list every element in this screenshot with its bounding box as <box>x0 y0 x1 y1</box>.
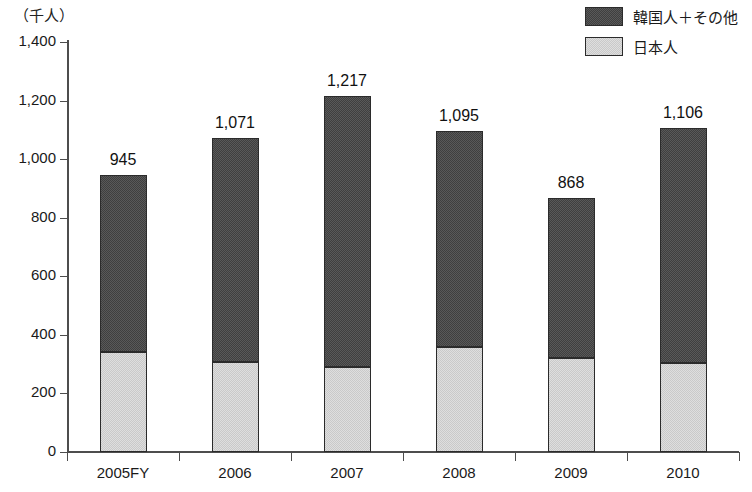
x-axis-tick <box>179 452 180 461</box>
bar-segment-korean-other[interactable] <box>436 131 483 347</box>
y-axis-tick <box>60 101 68 102</box>
y-axis-tick <box>60 335 68 336</box>
y-axis-tick-label: 0 <box>0 442 56 459</box>
bar-total-label: 868 <box>511 174 631 192</box>
stacked-bar[interactable] <box>548 198 595 452</box>
bar-segment-japanese[interactable] <box>548 358 595 452</box>
bar-segment-japanese[interactable] <box>212 362 259 452</box>
y-axis-tick-label: 600 <box>0 266 56 283</box>
y-axis-tick <box>60 276 68 277</box>
x-axis-tick <box>291 452 292 461</box>
x-axis-tick-label: 2010 <box>623 464 743 481</box>
x-axis-tick-label: 2006 <box>175 464 295 481</box>
x-axis-tick <box>739 452 740 461</box>
bar-total-label: 1,095 <box>399 107 519 125</box>
y-axis-line <box>67 40 69 453</box>
bar-total-label: 945 <box>63 151 183 169</box>
stacked-bar[interactable] <box>660 128 707 452</box>
bar-total-label: 1,217 <box>287 72 407 90</box>
x-axis-tick <box>67 452 68 461</box>
x-axis-tick-label: 2005FY <box>63 464 183 481</box>
y-axis-tick <box>60 42 68 43</box>
x-axis-tick <box>627 452 628 461</box>
y-axis-tick-label: 800 <box>0 208 56 225</box>
stacked-bar[interactable] <box>324 96 371 452</box>
stacked-bar[interactable] <box>436 131 483 452</box>
y-axis-tick-label: 1,400 <box>0 32 56 49</box>
y-axis-tick-label: 200 <box>0 383 56 400</box>
x-axis-tick <box>515 452 516 461</box>
bar-segment-korean-other[interactable] <box>100 175 147 352</box>
x-axis-tick-label: 2009 <box>511 464 631 481</box>
x-axis-tick-label: 2008 <box>399 464 519 481</box>
stacked-bar-chart: （千人） 韓国人＋その他 日本人 02004006008001,0001,200… <box>0 0 752 492</box>
bar-segment-japanese[interactable] <box>436 347 483 452</box>
bar-segment-japanese[interactable] <box>660 363 707 452</box>
bar-segment-korean-other[interactable] <box>660 128 707 363</box>
stacked-bar[interactable] <box>212 138 259 452</box>
bar-total-label: 1,071 <box>175 114 295 132</box>
bar-segment-korean-other[interactable] <box>324 96 371 367</box>
y-axis-tick <box>60 393 68 394</box>
bar-segment-japanese[interactable] <box>324 367 371 452</box>
bar-segment-japanese[interactable] <box>100 352 147 452</box>
bar-total-label: 1,106 <box>623 104 743 122</box>
bar-segment-korean-other[interactable] <box>548 198 595 358</box>
y-axis-tick-label: 1,000 <box>0 149 56 166</box>
stacked-bar[interactable] <box>100 175 147 452</box>
x-axis-tick <box>403 452 404 461</box>
plot-area: 02004006008001,0001,2001,400 2005FY20062… <box>0 0 752 492</box>
y-axis-tick-label: 1,200 <box>0 91 56 108</box>
bar-segment-korean-other[interactable] <box>212 138 259 361</box>
x-axis-tick-label: 2007 <box>287 464 407 481</box>
y-axis-tick <box>60 218 68 219</box>
y-axis-tick-label: 400 <box>0 325 56 342</box>
